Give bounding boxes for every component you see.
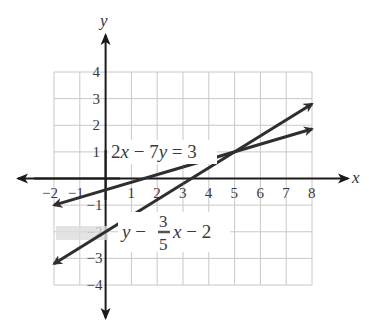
eq2-fraction-numerator: 3 xyxy=(159,212,168,231)
eq1-label: 2x − 7y = 3 xyxy=(111,141,197,162)
eq2-label: y − xyxy=(120,221,146,242)
x-tick-label: 8 xyxy=(308,185,316,201)
eq2-label-tail: x − 2 xyxy=(172,221,211,242)
x-tick-label: 1 xyxy=(127,185,134,201)
y-tick-label: 3 xyxy=(93,91,101,107)
x-tick-label: 6 xyxy=(256,185,264,201)
x-tick-label: 7 xyxy=(282,185,290,201)
x-axis-label: x xyxy=(351,168,360,187)
eq2-fraction-denominator: 5 xyxy=(159,235,168,254)
coordinate-plane: −2−1123456784321−1−2−3−4 2x − 7y = 3 y −… xyxy=(0,0,369,333)
y-tick-label: 4 xyxy=(93,64,101,80)
y-tick-label: 2 xyxy=(93,117,101,133)
x-tick-label: 4 xyxy=(205,185,213,201)
smudge xyxy=(56,226,108,240)
y-tick-label: −4 xyxy=(87,277,103,293)
x-tick-label: −2 xyxy=(42,185,58,201)
y-tick-label: 1 xyxy=(93,144,101,160)
y-axis-label: y xyxy=(98,11,108,30)
y-tick-label: −3 xyxy=(87,250,103,266)
x-tick-label: 5 xyxy=(231,185,239,201)
y-tick-label: −1 xyxy=(87,197,103,213)
